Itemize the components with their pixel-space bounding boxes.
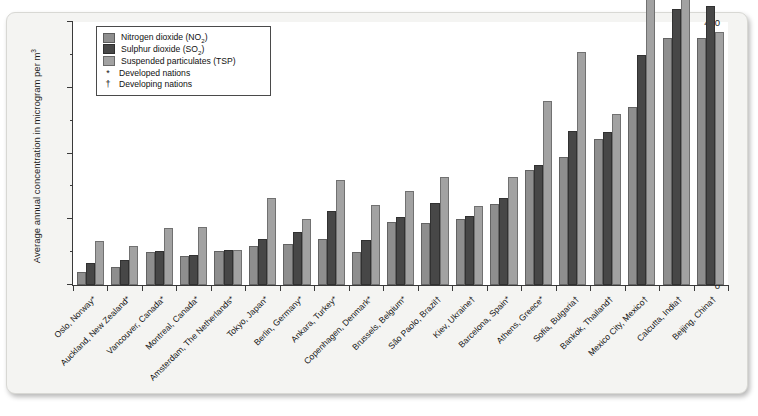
bar-so2 [293, 232, 302, 285]
y-axis-tick [67, 87, 73, 88]
bar-group [559, 22, 586, 285]
x-axis-tick-label: Mexico City, Mexico† [586, 294, 650, 358]
bar-tsp [164, 228, 173, 285]
bar-group [525, 22, 552, 285]
x-axis-tick [107, 285, 108, 291]
y-axis-title-text: Average annual concentration in microgra… [31, 53, 42, 264]
plot-wrapper: Average annual concentration in microgra… [0, 0, 758, 416]
bar-tsp [198, 227, 207, 285]
bar-so2 [499, 198, 508, 285]
bar-no2 [697, 38, 706, 285]
bar-group [387, 22, 414, 285]
bar-tsp [646, 0, 655, 285]
y-axis-minor-tick [70, 251, 74, 252]
bar-tsp [612, 114, 621, 285]
bar-group [318, 22, 345, 285]
legend-label: Sulphur dioxide (SO2) [121, 44, 204, 56]
x-axis-tick [211, 285, 212, 291]
y-axis-title: Average annual concentration in microgra… [30, 16, 42, 296]
bar-no2 [525, 170, 534, 285]
x-axis-tick [625, 285, 626, 291]
bar-so2 [155, 251, 164, 285]
x-axis-tick [349, 285, 350, 291]
legend-so2: Sulphur dioxide (SO2) [103, 44, 264, 56]
x-axis-tick [418, 285, 419, 291]
bar-tsp [336, 180, 345, 285]
x-axis-tick [694, 285, 695, 291]
bar-tsp [681, 0, 690, 285]
y-axis-minor-tick [70, 120, 74, 121]
bar-group [421, 22, 448, 285]
y-axis-tick [67, 21, 73, 22]
bar-tsp [508, 177, 517, 285]
x-axis-tick [383, 285, 384, 291]
bar-so2 [465, 216, 474, 285]
legend-swatch-no2 [103, 33, 115, 43]
x-axis-tick [176, 285, 177, 291]
bar-so2 [361, 240, 370, 285]
bar-so2 [258, 239, 267, 285]
x-axis-tick [73, 285, 74, 291]
chart-legend: Nitrogen dioxide (NO2)Sulphur dioxide (S… [96, 26, 271, 96]
x-axis-tick [556, 285, 557, 291]
bar-so2 [672, 9, 681, 285]
legend-tsp: Suspended particulates (TSP) [103, 55, 264, 67]
bar-tsp [577, 52, 586, 285]
x-axis-tick [280, 285, 281, 291]
bar-group [697, 22, 724, 285]
bar-so2 [327, 211, 336, 285]
bar-tsp [405, 191, 414, 285]
bar-group [490, 22, 517, 285]
bar-no2 [387, 222, 396, 285]
bar-no2 [146, 252, 155, 285]
bar-no2 [180, 256, 189, 285]
bar-no2 [559, 157, 568, 285]
bar-no2 [421, 223, 430, 285]
x-axis-tick [487, 285, 488, 291]
bar-so2 [706, 6, 715, 285]
bar-tsp [474, 206, 483, 285]
bar-so2 [86, 263, 95, 285]
bar-group [352, 22, 379, 285]
bar-tsp [233, 250, 242, 285]
bar-tsp [302, 219, 311, 285]
legend-developing: †Developing nations [103, 78, 264, 90]
y-axis-minor-tick [70, 54, 74, 55]
legend-label: Developed nations [119, 68, 190, 78]
y-axis-tick [67, 153, 73, 154]
bar-no2 [594, 139, 603, 285]
legend-symbol-icon: † [103, 80, 113, 88]
air-pollution-bar-chart-figure: Average annual concentration in microgra… [0, 0, 758, 416]
bar-so2 [430, 203, 439, 285]
x-axis-tick [659, 285, 660, 291]
bar-group [283, 22, 310, 285]
bar-so2 [224, 250, 233, 285]
x-axis-tick [452, 285, 453, 291]
legend-swatch-tsp [103, 56, 115, 66]
legend-label: Suspended particulates (TSP) [121, 56, 236, 66]
bar-tsp [371, 205, 380, 285]
bar-tsp [267, 198, 276, 285]
bar-so2 [120, 260, 129, 285]
legend-swatch-so2 [103, 44, 115, 54]
bar-no2 [249, 246, 258, 285]
y-axis-minor-tick [70, 185, 74, 186]
bar-group [456, 22, 483, 285]
legend-label: Nitrogen dioxide (NO2) [121, 32, 208, 44]
x-axis-tick [590, 285, 591, 291]
bar-group [663, 22, 690, 285]
bar-no2 [352, 252, 361, 285]
bar-so2 [534, 165, 543, 285]
legend-symbol-icon: * [103, 69, 113, 77]
bar-no2 [663, 38, 672, 285]
x-axis-tick [728, 285, 729, 291]
bar-so2 [568, 131, 577, 286]
legend-developed: *Developed nations [103, 67, 264, 79]
legend-label: Developing nations [119, 79, 192, 89]
bar-no2 [77, 272, 86, 285]
bar-group [628, 22, 655, 285]
x-axis-tick [314, 285, 315, 291]
bar-so2 [603, 132, 612, 285]
bar-tsp [715, 32, 724, 285]
bar-no2 [456, 219, 465, 285]
